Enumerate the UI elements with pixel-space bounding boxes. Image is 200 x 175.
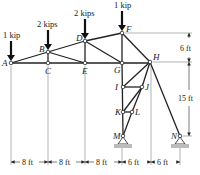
dim-label-h4: 6 ft <box>128 158 140 167</box>
node-label-N: N <box>170 131 178 141</box>
node-label-M: M <box>112 131 121 141</box>
load-label-B: 2 kips <box>37 19 58 29</box>
load-label-D: 2 kips <box>74 8 95 18</box>
load-label-A: 1 kip <box>3 30 20 40</box>
load-label-F: 1 kip <box>114 0 131 10</box>
dim-label-h1: 8 ft <box>22 158 34 167</box>
truss-diagram: 1 kip 2 kips 2 kips 1 kip A B C D E F G … <box>0 0 200 175</box>
node-label-K: K <box>114 107 122 117</box>
node-label-I: I <box>114 82 119 92</box>
node-label-L: L <box>134 107 140 117</box>
node-label-F: F <box>125 24 132 34</box>
node-label-J: J <box>145 82 150 92</box>
node-label-E: E <box>81 66 88 76</box>
node-label-G: G <box>114 65 121 75</box>
dim-label-v2: 15 ft <box>178 94 194 103</box>
node-label-B: B <box>39 44 45 54</box>
truss-members <box>11 33 180 136</box>
node-label-A: A <box>1 58 8 68</box>
node-label-D: D <box>75 33 83 43</box>
dim-label-h2: 8 ft <box>59 158 71 167</box>
node-label-C: C <box>45 66 52 76</box>
node-label-H: H <box>152 52 160 62</box>
dim-label-h3: 8 ft <box>96 158 108 167</box>
dim-label-v1: 6 ft <box>180 44 192 53</box>
dim-label-h5: 6 ft <box>157 158 169 167</box>
